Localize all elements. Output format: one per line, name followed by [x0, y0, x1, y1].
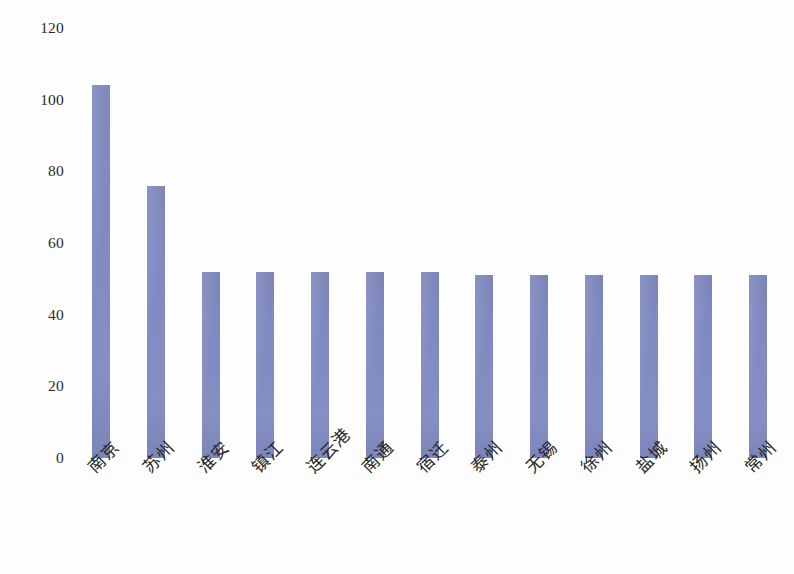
y-axis-tick-label: 100: [18, 92, 64, 108]
bar-shading: [585, 275, 603, 458]
bar: [694, 275, 712, 458]
bar-shading: [202, 272, 220, 458]
bar: [421, 272, 439, 458]
bar-shading: [366, 272, 384, 458]
bar: [585, 275, 603, 458]
y-axis-tick-label: 20: [18, 379, 64, 395]
bar: [749, 275, 767, 458]
bar-shading: [311, 272, 329, 458]
bar: [256, 272, 274, 458]
bar-shading: [475, 275, 493, 458]
x-axis: 南京苏州淮安镇江连云港南通宿迁泰州无锡徐州盐城扬州常州: [72, 458, 784, 574]
bar: [366, 272, 384, 458]
bar-shading: [694, 275, 712, 458]
bar: [640, 275, 658, 458]
bar-shading: [256, 272, 274, 458]
y-axis-tick-label: 40: [18, 307, 64, 323]
bar: [92, 85, 110, 458]
bar: [202, 272, 220, 458]
bar: [475, 275, 493, 458]
bar-chart: 020406080100120 南京苏州淮安镇江连云港南通宿迁泰州无锡徐州盐城扬…: [0, 0, 794, 574]
y-axis-tick-label: 120: [18, 20, 64, 36]
bar-slot: [83, 28, 119, 458]
bar-shading: [749, 275, 767, 458]
bar-shading: [92, 85, 110, 458]
y-axis: 020406080100120: [18, 0, 64, 574]
y-axis-tick-label: 60: [18, 235, 64, 251]
bar-shading: [530, 275, 548, 458]
bar: [311, 272, 329, 458]
y-axis-tick-label: 0: [18, 450, 64, 466]
bar: [530, 275, 548, 458]
bar-shading: [421, 272, 439, 458]
bar-shading: [640, 275, 658, 458]
y-axis-tick-label: 80: [18, 164, 64, 180]
